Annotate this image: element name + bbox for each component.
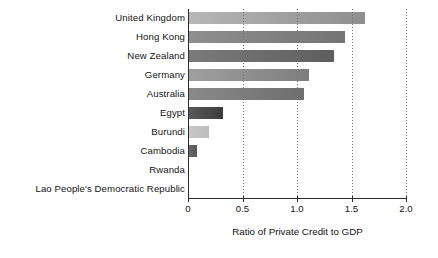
x-axis-tick-label: 0 [168,203,208,214]
category-axis-labels: United KingdomHong KongNew ZealandGerman… [0,9,185,198]
x-axis-tick-label: 2.0 [386,203,426,214]
category-label: Burundi [0,127,185,137]
category-label: Cambodia [0,146,185,156]
x-axis-tick-label: 0.5 [223,203,263,214]
category-label: Hong Kong [0,32,185,42]
x-axis-tick-label: 1.0 [277,203,317,214]
x-axis-tick-label: 1.5 [332,203,372,214]
category-label: Australia [0,89,185,99]
bar [188,31,345,43]
bar [188,107,223,119]
gridline [352,9,353,198]
x-axis-title: Ratio of Private Credit to GDP [188,226,407,238]
gridline [243,9,244,198]
category-label: Rwanda [0,165,185,175]
bar [188,12,365,24]
bar [188,145,197,157]
gridline [297,9,298,198]
bar [188,88,304,100]
y-axis-line [188,9,189,199]
category-label: Egypt [0,108,185,118]
bar [188,50,334,62]
x-axis-tick [188,195,189,202]
bar [188,69,309,81]
bar [188,126,209,138]
category-label: Lao People's Democratic Republic [0,184,185,194]
category-label: New Zealand [0,51,185,61]
gridline [406,9,407,198]
category-label: United Kingdom [0,13,185,23]
bar-chart: United KingdomHong KongNew ZealandGerman… [0,0,438,258]
category-label: Germany [0,70,185,80]
